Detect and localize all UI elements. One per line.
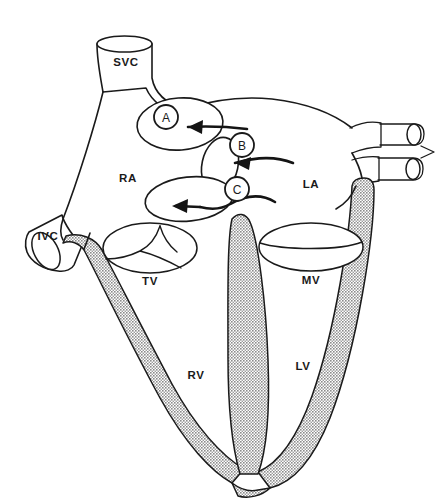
callout-c-label: C xyxy=(233,183,242,197)
shunt-flow-arrow-b xyxy=(235,157,293,170)
left-atrium-lateral-wall xyxy=(352,153,362,178)
ivc-label: IVC xyxy=(38,230,59,242)
defect-callout-c[interactable]: C xyxy=(225,177,249,201)
inferior-vena-cava: IVC xyxy=(26,215,83,274)
tricuspid-annulus xyxy=(103,223,197,273)
svc-label: SVC xyxy=(113,56,138,68)
defect-callout-b[interactable]: B xyxy=(230,133,254,157)
mitral-annulus xyxy=(259,223,363,271)
tv-label: TV xyxy=(142,275,158,287)
defect-callout-a[interactable]: A xyxy=(154,105,178,129)
rv-label: RV xyxy=(188,369,205,381)
heart-diagram-figure: SVC IVC xyxy=(0,0,436,504)
callout-a-label: A xyxy=(162,111,170,125)
heart-cross-section-illustration: SVC IVC xyxy=(0,0,436,504)
right-atrium-border xyxy=(61,92,103,240)
la-label: LA xyxy=(303,178,320,190)
cardiac-apex xyxy=(232,483,270,497)
lv-label: LV xyxy=(295,360,310,372)
ra-label: RA xyxy=(119,172,137,184)
callout-b-label: B xyxy=(238,139,246,153)
pulmonary-vein-upper xyxy=(350,122,424,153)
mv-label: MV xyxy=(302,274,320,286)
